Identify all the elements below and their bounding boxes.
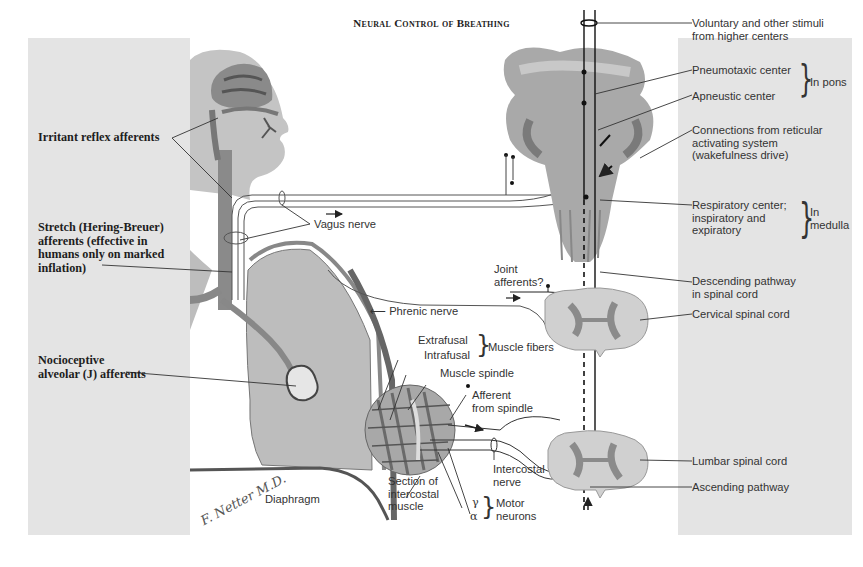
label-ascending-pathway: Ascending pathway bbox=[692, 481, 789, 494]
label-phrenic-nerve: ⟵ Phrenic nerve bbox=[370, 305, 458, 318]
label-line: afferents (effective in bbox=[38, 235, 164, 249]
label-line: expiratory bbox=[692, 224, 787, 237]
intercostal-muscle-section bbox=[365, 385, 455, 475]
label-cervical-spinal-cord: Cervical spinal cord bbox=[692, 308, 790, 321]
label-pneumotaxic-center: Pneumotaxic center bbox=[692, 64, 791, 77]
label-afferent-from-spindle: Afferent from spindle bbox=[472, 389, 533, 414]
label-text: Phrenic nerve bbox=[389, 305, 458, 317]
label-intercostal-nerve: Intercostal nerve bbox=[493, 463, 545, 488]
label-extrafusal: Extrafusal bbox=[418, 334, 468, 347]
label-line: muscle bbox=[388, 500, 439, 513]
label-line: from spindle bbox=[472, 402, 533, 415]
label-lumbar-spinal-cord: Lumbar spinal cord bbox=[692, 455, 787, 468]
label-line: nerve bbox=[493, 476, 545, 489]
label-line: Stretch (Hering-Breuer) bbox=[38, 221, 164, 235]
label-line: In bbox=[810, 206, 849, 219]
label-line: Nocioceptive bbox=[38, 354, 146, 368]
label-intrafusal: Intrafusal bbox=[424, 349, 470, 362]
label-line: Respiratory center; bbox=[692, 199, 787, 212]
label-joint-afferents: Joint afferents? bbox=[494, 263, 544, 288]
label-line: in spinal cord bbox=[692, 288, 796, 301]
label-descending-pathway: Descending pathway in spinal cord bbox=[692, 275, 796, 300]
label-line: Motor bbox=[496, 497, 536, 510]
label-nocioceptive-afferents: Nocioceptive alveolar (J) afferents bbox=[38, 354, 146, 381]
label-line: alveolar (J) afferents bbox=[38, 368, 146, 382]
label-in-medulla: In medulla bbox=[810, 206, 849, 231]
label-motor-neurons: Motor neurons bbox=[496, 497, 536, 522]
label-irritant-reflex-afferents: Irritant reflex afferents bbox=[38, 131, 159, 145]
label-line: inflation) bbox=[38, 262, 164, 276]
brainstem bbox=[504, 48, 654, 263]
label-line: afferents? bbox=[494, 276, 544, 289]
label-line: activating system bbox=[692, 137, 823, 150]
label-alpha: α bbox=[470, 511, 478, 524]
label-section-intercostal-muscle: Section of intercostal muscle bbox=[388, 475, 439, 513]
label-apneustic-center: Apneustic center bbox=[692, 90, 775, 103]
cervical-spinal-cord bbox=[545, 288, 648, 357]
label-line: Joint bbox=[494, 263, 544, 276]
label-voluntary-stimuli: Voluntary and other stimuli from higher … bbox=[692, 17, 824, 42]
label-line: medulla bbox=[810, 219, 849, 232]
label-muscle-fibers: Muscle fibers bbox=[488, 341, 554, 354]
label-diaphragm: Diaphragm bbox=[265, 493, 320, 506]
label-line: Section of bbox=[388, 475, 439, 488]
label-line: inspiratory and bbox=[692, 212, 787, 225]
label-line: Intercostal bbox=[493, 463, 545, 476]
label-line: Descending pathway bbox=[692, 275, 796, 288]
label-line: Connections from reticular bbox=[692, 124, 823, 137]
label-muscle-spindle: Muscle spindle bbox=[440, 367, 514, 380]
label-line: (wakefulness drive) bbox=[692, 149, 823, 162]
label-connections-reticular: Connections from reticular activating sy… bbox=[692, 124, 823, 162]
label-vagus-nerve: Vagus nerve bbox=[314, 218, 376, 231]
brace-icon: } bbox=[481, 493, 496, 521]
label-line: Voluntary and other stimuli bbox=[692, 17, 824, 30]
arrow-left-icon: ⟵ bbox=[370, 305, 389, 317]
label-stretch-afferents: Stretch (Hering-Breuer) afferents (effec… bbox=[38, 221, 164, 275]
label-line: intercostal bbox=[388, 488, 439, 501]
label-line: from higher centers bbox=[692, 30, 824, 43]
lumbar-spinal-cord bbox=[548, 431, 648, 498]
label-line: humans only on marked bbox=[38, 248, 164, 262]
label-line: neurons bbox=[496, 510, 536, 523]
label-line: Afferent bbox=[472, 389, 533, 402]
label-in-pons: In pons bbox=[810, 76, 847, 89]
label-respiratory-center: Respiratory center; inspiratory and expi… bbox=[692, 199, 787, 237]
label-gamma: γ bbox=[472, 497, 479, 510]
